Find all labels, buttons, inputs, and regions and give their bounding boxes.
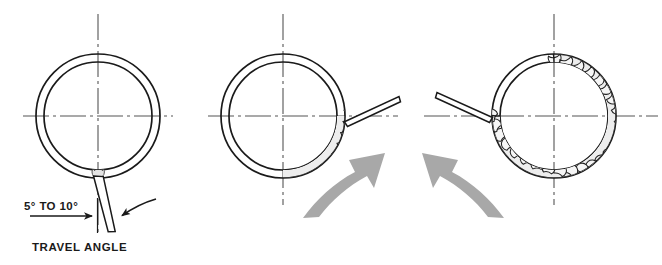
travel-angle-value: 5° TO 10° [24,200,78,212]
welding-diagram: 5° TO 10° TRAVEL ANGLE [0,0,662,265]
diagram-canvas: 5° TO 10° TRAVEL ANGLE [0,0,662,265]
travel-angle-caption: TRAVEL ANGLE [32,241,127,253]
canvas-background [0,0,662,265]
